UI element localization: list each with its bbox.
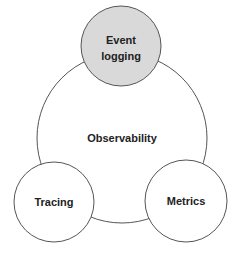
event-logging-label-line1: Event bbox=[106, 34, 136, 46]
event-logging-label-line2: logging bbox=[101, 50, 141, 62]
tracing-label: Tracing bbox=[34, 196, 73, 208]
metrics-label: Metrics bbox=[167, 195, 206, 207]
observability-label: Observability bbox=[87, 132, 158, 144]
event-logging-node bbox=[81, 6, 161, 86]
observability-diagram: Observability Event logging Tracing Metr… bbox=[0, 0, 237, 257]
